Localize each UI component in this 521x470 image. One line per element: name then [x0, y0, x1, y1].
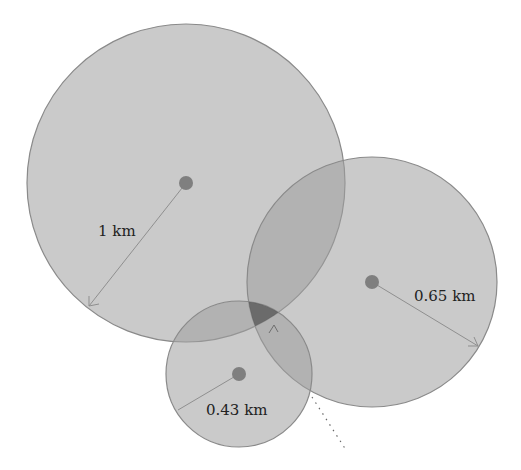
radius-label-1km: 1 km	[98, 222, 136, 240]
center-dot-1km	[179, 176, 193, 190]
dotted-leader-line	[312, 397, 346, 450]
center-dot-043km	[232, 367, 246, 381]
radius-label-065km: 0.65 km	[414, 287, 475, 305]
trilateration-diagram: 1 km 0.65 km 0.43 km	[0, 0, 521, 470]
radius-label-043km: 0.43 km	[206, 401, 267, 419]
center-dot-065km	[365, 275, 379, 289]
